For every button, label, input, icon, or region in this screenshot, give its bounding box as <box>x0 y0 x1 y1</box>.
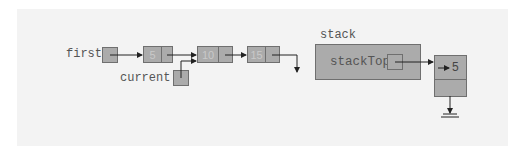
arrow-node15-to-null <box>272 55 297 72</box>
arrow-current-to-node10 <box>181 61 196 78</box>
pointer-arrows <box>0 0 530 156</box>
